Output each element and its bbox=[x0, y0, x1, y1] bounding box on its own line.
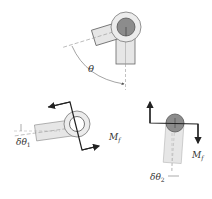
delta-theta-2-label: δθ2 bbox=[150, 172, 165, 183]
right-assembly: Mf δθ2 bbox=[150, 102, 205, 183]
moment-left-label: Mf bbox=[108, 132, 122, 144]
top-assembly: θ bbox=[61, 12, 141, 90]
moment-right-label: Mf bbox=[191, 150, 205, 162]
diagram-canvas: θ δθ1 Mf Mf δθ2 bbox=[0, 0, 212, 199]
theta-label: θ bbox=[88, 63, 94, 74]
delta-theta-1-label: δθ1 bbox=[16, 137, 31, 148]
left-assembly: δθ1 Mf bbox=[14, 102, 123, 150]
